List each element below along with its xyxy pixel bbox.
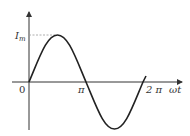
tick-label-2pi: 2 π (145, 84, 163, 95)
sine-diagram: Im 0 π 2 π ωt (0, 0, 190, 136)
origin-label: 0 (19, 84, 25, 95)
x-axis-label: ωt (169, 84, 182, 95)
y-axis-label: Im (14, 30, 26, 43)
tick-label-pi: π (77, 84, 85, 95)
